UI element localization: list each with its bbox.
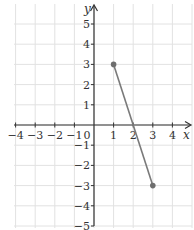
x-tick-label: 3 [149,129,156,142]
axes [14,5,191,226]
x-axis-label: x [183,128,190,142]
x-tick-label: −2 [47,129,63,142]
coordinate-plane: −4−3−2−10123454321−1−2−3−4−5 x y [0,0,194,230]
y-tick-label: −1 [74,139,90,152]
y-tick-label: −2 [74,159,90,172]
y-axis-label: y [83,2,91,16]
y-tick-label: 3 [83,58,90,71]
x-tick-label: 4 [169,129,176,142]
y-tick-label: 5 [83,18,90,31]
y-tick-label: 2 [83,79,90,92]
y-tick-label: 4 [83,38,90,51]
x-tick-label: 1 [110,129,117,142]
y-tick-label: −3 [74,180,90,193]
grid-lines [14,4,192,228]
x-tick-label: −4 [7,129,23,142]
x-tick-label: −3 [27,129,43,142]
tick-labels: −4−3−2−10123454321−1−2−3−4−5 [7,18,175,230]
y-tick-label: −4 [74,200,90,213]
y-tick-label: −5 [74,220,90,230]
endpoint-dot [111,62,117,68]
y-tick-label: 1 [83,99,90,112]
endpoint-dot [150,183,156,189]
